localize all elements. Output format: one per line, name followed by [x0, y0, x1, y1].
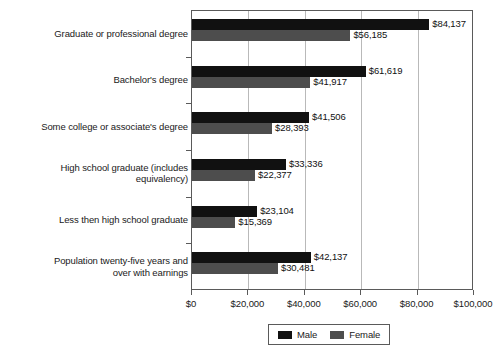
category-label-text: Less then high school graduate — [2, 214, 188, 226]
chart-legend: MaleFemale — [268, 324, 390, 345]
y-axis-tick — [186, 57, 191, 58]
x-axis-tick — [191, 290, 192, 295]
legend-item[interactable]: Female — [330, 329, 380, 340]
category-label-text: High school graduate (includesequivalenc… — [2, 162, 188, 185]
bar-female — [192, 77, 310, 88]
bar-value-label-male: $61,619 — [369, 65, 403, 76]
x-axis-tick — [360, 290, 361, 295]
bar-female — [192, 170, 255, 181]
y-axis-tick — [186, 150, 191, 151]
category-label: Less then high school graduate — [0, 197, 188, 244]
legend-label: Female — [349, 329, 380, 340]
y-axis-tick — [186, 243, 191, 244]
category-label: Bachelor's degree — [0, 57, 188, 104]
bar-value-label-male: $33,336 — [289, 158, 323, 169]
bar-value-label-male: $41,506 — [312, 111, 346, 122]
category-label: Some college or associate's degree — [0, 103, 188, 150]
bar-female — [192, 263, 278, 274]
x-axis-tick-label: $0 — [186, 298, 196, 309]
bar-value-label-female: $30,481 — [281, 262, 315, 273]
category-axis-labels: Graduate or professional degreeBachelor'… — [0, 10, 188, 290]
bar-value-label-male: $23,104 — [260, 205, 294, 216]
bar-group: $23,104$15,369 — [192, 198, 472, 245]
plot-area: $84,137$56,185$61,619$41,917$41,506$28,3… — [191, 10, 473, 290]
category-label-text: Population twenty-five years andover wit… — [2, 255, 188, 278]
bar-group: $84,137$56,185 — [192, 11, 472, 58]
bar-group: $42,137$30,481 — [192, 244, 472, 291]
x-axis-tick-label: $100,000 — [454, 298, 493, 309]
bar-female — [192, 217, 235, 228]
category-label: Population twenty-five years andover wit… — [0, 243, 188, 290]
x-axis-tick-label: $40,000 — [287, 298, 321, 309]
x-axis-tick-label: $20,000 — [231, 298, 265, 309]
legend-label: Male — [297, 329, 317, 340]
bar-value-label-female: $22,377 — [258, 169, 292, 180]
bar-group: $33,336$22,377 — [192, 151, 472, 198]
legend-swatch-icon — [330, 331, 344, 339]
bar-male — [192, 19, 429, 30]
legend-swatch-icon — [278, 331, 292, 339]
x-axis-tick — [417, 290, 418, 295]
y-axis-tick — [186, 103, 191, 104]
y-axis-tick — [186, 197, 191, 198]
category-label-text: Bachelor's degree — [2, 74, 188, 86]
category-label: Graduate or professional degree — [0, 10, 188, 57]
category-label-text: Graduate or professional degree — [2, 28, 188, 40]
x-axis-tick-label: $60,000 — [343, 298, 377, 309]
bar-value-label-female: $41,917 — [313, 76, 347, 87]
x-axis-tick — [247, 290, 248, 295]
x-axis-tick-label: $80,000 — [400, 298, 434, 309]
bar-value-label-female: $56,185 — [353, 29, 387, 40]
bar-value-label-male: $84,137 — [432, 18, 466, 29]
category-label-text: Some college or associate's degree — [2, 121, 188, 133]
earnings-by-education-bar-chart: Graduate or professional degreeBachelor'… — [0, 0, 495, 350]
x-axis-tick — [304, 290, 305, 295]
bar-group: $61,619$41,917 — [192, 58, 472, 105]
bar-value-label-female: $28,393 — [275, 122, 309, 133]
bar-value-label-female: $15,369 — [238, 216, 272, 227]
legend-item[interactable]: Male — [278, 329, 317, 340]
bar-female — [192, 123, 272, 134]
category-label: High school graduate (includesequivalenc… — [0, 150, 188, 197]
x-axis-tick — [473, 290, 474, 295]
bar-value-label-male: $42,137 — [314, 251, 348, 262]
bar-group: $41,506$28,393 — [192, 104, 472, 151]
bar-female — [192, 30, 350, 41]
